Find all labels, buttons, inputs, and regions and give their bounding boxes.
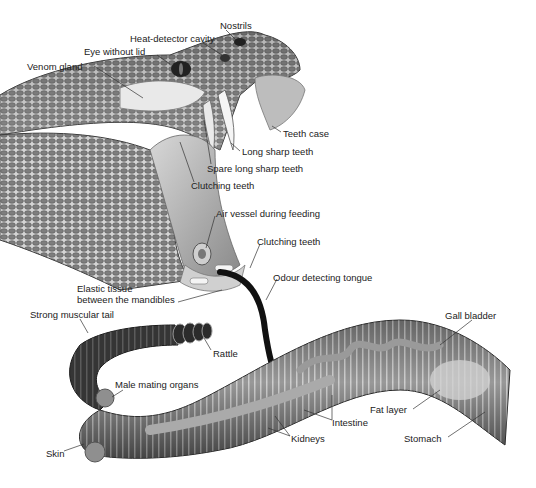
label-nostrils: Nostrils [220,20,252,31]
label-fat-layer: Fat layer [370,404,407,415]
label-clutching-teeth-lower: Clutching teeth [257,236,320,247]
label-clutching-teeth-upper: Clutching teeth [191,180,254,191]
label-skin: Skin [46,448,64,459]
label-eye-without-lid: Eye without lid [84,46,145,57]
label-air-vessel: Air vessel during feeding [216,208,320,219]
label-intestine: Intestine [332,417,368,428]
label-venom-gland: Venom gland [27,61,82,72]
label-gall-bladder: Gall bladder [445,310,496,321]
label-odour-detecting-tongue: Odour detecting tongue [273,272,372,283]
label-strong-muscular-tail: Strong muscular tail [30,309,114,320]
label-stomach: Stomach [404,433,442,444]
snake-body [70,320,510,462]
label-teeth-case: Teeth case [283,128,329,139]
label-kidneys: Kidneys [291,433,325,444]
label-male-mating-organs: Male mating organs [115,379,198,390]
snake-neck [0,133,245,291]
label-heat-detector-cavity: Heat-detector cavity [130,33,214,44]
label-long-sharp-teeth: Long sharp teeth [242,146,313,157]
rattle-segments [173,323,212,344]
label-elastic-tissue: Elastic tissue between the mandibles [77,283,175,305]
label-spare-long-sharp-teeth: Spare long sharp teeth [207,163,303,174]
label-rattle: Rattle [213,348,238,359]
